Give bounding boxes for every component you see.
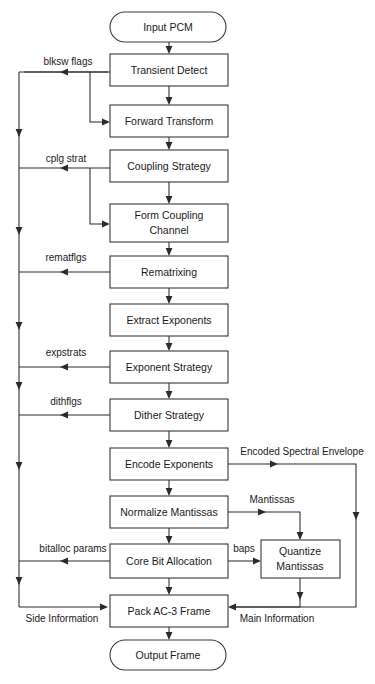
node-encode-exponents[interactable]: Encode Exponents <box>110 448 228 480</box>
node-quantize-mantissas-label-line2: Mantissas <box>276 560 323 572</box>
node-dither-strategy[interactable]: Dither Strategy <box>110 399 228 431</box>
node-rematrixing[interactable]: Rematrixing <box>110 256 228 288</box>
node-form-coupling-channel[interactable]: Form Coupling Channel <box>110 204 228 242</box>
edge-label-bitalloc-params: bitalloc params <box>39 543 106 554</box>
node-output-frame-label: Output Frame <box>136 649 201 661</box>
ac3-encoder-flowchart: Input PCM Transient Detect Forward Trans… <box>0 0 375 684</box>
node-form-coupling-channel-label-line2: Channel <box>149 224 188 236</box>
edge-label-expstrats: expstrats <box>46 347 87 358</box>
edge-label-blksw-flags: blksw flags <box>44 56 93 67</box>
node-quantize-mantissas[interactable]: Quantize Mantissas <box>261 540 340 578</box>
main-information-bus <box>228 461 359 611</box>
node-normalize-mantissas-label: Normalize Mantissas <box>120 506 217 518</box>
node-extract-exponents[interactable]: Extract Exponents <box>110 304 228 336</box>
node-output-frame[interactable]: Output Frame <box>110 640 226 670</box>
node-rematrixing-label: Rematrixing <box>141 266 197 278</box>
node-forward-transform[interactable]: Forward Transform <box>110 105 228 137</box>
node-exponent-strategy[interactable]: Exponent Strategy <box>110 351 228 383</box>
left-tap-connectors <box>19 69 110 565</box>
edge-label-dithflgs: dithflgs <box>50 396 82 407</box>
edge-label-baps: baps <box>233 543 255 554</box>
node-pack-ac3-frame[interactable]: Pack AC-3 Frame <box>110 595 228 627</box>
node-quantize-mantissas-label-line1: Quantize <box>279 545 321 557</box>
edge-label-cplg-strat: cplg strat <box>46 153 87 164</box>
edge-labels-layer: blksw flags cplg strat rematflgs expstra… <box>26 56 365 624</box>
flowchart-page: Input PCM Transient Detect Forward Trans… <box>0 0 375 684</box>
node-exponent-strategy-label: Exponent Strategy <box>126 361 213 373</box>
node-dither-strategy-label: Dither Strategy <box>134 409 205 421</box>
edge-label-mantissas: Mantissas <box>249 494 294 505</box>
node-transient-detect-label: Transient Detect <box>131 64 208 76</box>
node-normalize-mantissas[interactable]: Normalize Mantissas <box>110 496 228 528</box>
edge-label-main-information: Main Information <box>240 613 314 624</box>
node-form-coupling-channel-label-line1: Form Coupling <box>135 209 204 221</box>
edge-label-side-information: Side Information <box>26 613 99 624</box>
node-core-bit-allocation-label: Core Bit Allocation <box>126 555 212 567</box>
node-transient-detect[interactable]: Transient Detect <box>110 54 228 86</box>
node-core-bit-allocation[interactable]: Core Bit Allocation <box>110 544 228 578</box>
node-coupling-strategy[interactable]: Coupling Strategy <box>110 150 228 182</box>
node-pack-ac3-frame-label: Pack AC-3 Frame <box>128 605 211 617</box>
edge-label-rematflgs: rematflgs <box>45 252 86 263</box>
node-input-pcm[interactable]: Input PCM <box>110 12 226 42</box>
node-coupling-strategy-label: Coupling Strategy <box>127 160 211 172</box>
edge-label-encoded-spectral-envelope: Encoded Spectral Envelope <box>240 446 364 457</box>
node-input-pcm-label: Input PCM <box>143 21 193 33</box>
node-extract-exponents-label: Extract Exponents <box>126 314 211 326</box>
node-encode-exponents-label: Encode Exponents <box>125 458 213 470</box>
node-forward-transform-label: Forward Transform <box>125 115 214 127</box>
nodes-layer: Input PCM Transient Detect Forward Trans… <box>110 12 340 670</box>
